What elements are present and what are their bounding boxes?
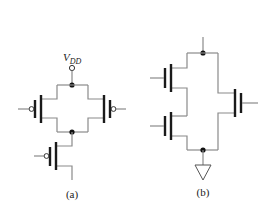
left-top-nmos-transistor [150,53,187,116]
gate-bubble-icon [29,107,34,112]
panel-a: VDD [18,51,126,201]
gate-bubble-icon [44,154,49,159]
gate-bubble-icon [111,107,116,112]
caption-b: (b) [197,186,210,199]
schematic-canvas: VDD [0,0,275,210]
left-bottom-nmos-transistor [150,112,187,150]
vdd-terminal-icon [69,65,74,70]
ground-icon [195,165,211,180]
vdd-label: VDD [63,51,82,66]
caption-a: (a) [66,188,79,201]
right-nmos-transistor [218,53,258,150]
left-pmos-transistor [18,85,57,132]
right-pmos-transistor [88,85,126,132]
bottom-pmos-transistor [34,132,72,180]
panel-b: (b) [150,37,258,199]
